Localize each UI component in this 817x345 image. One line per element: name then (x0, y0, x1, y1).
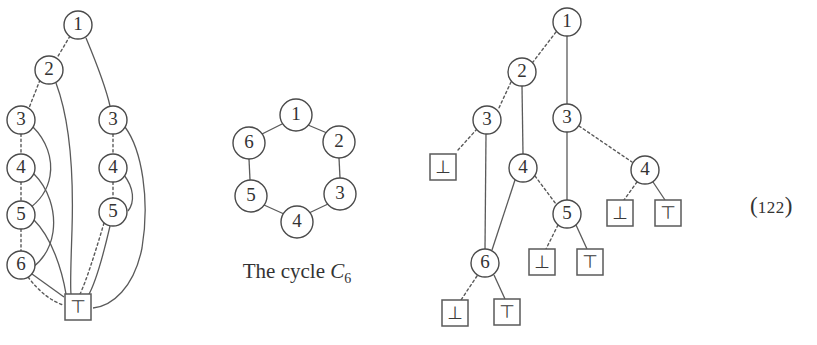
cycle-caption-symbol: C (330, 259, 345, 283)
terminal-node-B6-bottom[interactable]: ⊥ (442, 300, 468, 326)
edge-L2-L3a-dashed (29, 80, 40, 108)
edge-R5-B4-dashed (546, 225, 558, 249)
node-L5a[interactable]: 5 (7, 201, 35, 229)
node-R3a[interactable]: 3 (473, 106, 501, 134)
terminal-node-B2-bottom[interactable]: ⊥ (607, 200, 633, 226)
cycle-node-2[interactable]: 2 (323, 126, 355, 158)
equation-number-open-paren: ( (750, 193, 758, 218)
terminal-node-B3-top[interactable]: ⊤ (655, 200, 681, 226)
edge-R4b-B3-solid (653, 182, 665, 200)
edge-R4a-R6-solid (492, 180, 515, 250)
edge-R6-B7-solid (494, 275, 505, 299)
cycle-caption-prefix: The cycle (243, 259, 330, 283)
equation-number: (122) (750, 193, 792, 218)
cycle-edge-4-5 (264, 205, 284, 214)
edge-L5b-LT-solid (88, 226, 110, 296)
edge-R3a-R6-solid (485, 134, 486, 249)
cycle-caption-subscript: 6 (344, 271, 351, 286)
cycle-caption: The cycle C6 (243, 259, 351, 286)
edge-L6-LT-solid (32, 274, 64, 297)
equation-number-digits: 122 (758, 198, 785, 217)
node-L3b[interactable]: 3 (99, 106, 127, 134)
node-L5b[interactable]: 5 (99, 198, 127, 226)
cycle-node-5[interactable]: 5 (235, 180, 267, 212)
cycle-edge-6-1 (262, 124, 282, 134)
cycle-node-6[interactable]: 6 (233, 127, 265, 159)
edge-R4a-R5-dashed (535, 176, 556, 204)
edge-L1-L3b-solid (86, 38, 110, 106)
node-R2[interactable]: 2 (508, 58, 536, 86)
node-R3b[interactable]: 3 (553, 104, 581, 132)
cycle-node-4[interactable]: 4 (281, 206, 313, 238)
node-R5[interactable]: 5 (553, 200, 581, 228)
edge-R4b-B2-dashed (624, 182, 637, 200)
cycle-edge-5-6 (249, 159, 250, 180)
node-R6[interactable]: 6 (471, 249, 499, 277)
terminal-node-B5-top[interactable]: ⊤ (577, 249, 603, 275)
node-L1[interactable]: 1 (64, 11, 92, 39)
right-diagram: 1 2 3 3 4 4 5 (430, 8, 681, 326)
equation-number-close-paren: ) (785, 193, 793, 218)
middle-diagram: 1 2 3 4 5 6 The cycle C6 (233, 99, 356, 286)
left-diagram-nodes: 1 2 3 3 4 4 5 (7, 11, 127, 320)
node-L4a[interactable]: 4 (7, 154, 35, 182)
edge-R5-B5-solid (576, 225, 587, 249)
node-R4b[interactable]: 4 (631, 156, 659, 184)
edge-L1-L2-dashed (57, 36, 70, 58)
terminal-node-B7-top[interactable]: ⊤ (494, 299, 520, 325)
right-diagram-nodes: 1 2 3 3 4 4 5 (430, 8, 681, 326)
node-L4b[interactable]: 4 (99, 154, 127, 182)
node-R1[interactable]: 1 (553, 8, 581, 36)
edge-L5b-LT-dashed (80, 223, 104, 294)
edge-L5a-LT-solid (34, 220, 66, 294)
cycle-edge-2-3 (339, 158, 340, 178)
cycle-node-1[interactable]: 1 (280, 99, 312, 131)
edge-R3b-R4b-dashed (579, 126, 632, 162)
cycle-edge-1-2 (308, 125, 327, 133)
terminal-node-LT-top[interactable]: ⊤ (65, 294, 91, 320)
edge-R2-R4a-solid (522, 86, 523, 154)
node-L3a[interactable]: 3 (7, 106, 35, 134)
edge-R1-R2-dashed (533, 32, 556, 62)
cycle-edge-3-4 (309, 204, 328, 213)
node-L6[interactable]: 6 (7, 251, 35, 279)
cycle-node-3[interactable]: 3 (324, 178, 356, 210)
edge-R6-B6-dashed (461, 276, 477, 300)
terminal-node-B1-bottom[interactable]: ⊥ (430, 154, 456, 180)
figure-bdd-and-cycle-c6: 1 2 3 3 4 4 5 (0, 0, 817, 345)
terminal-node-B4-bottom[interactable]: ⊥ (529, 249, 555, 275)
left-diagram: 1 2 3 3 4 4 5 (7, 11, 145, 320)
node-R4a[interactable]: 4 (509, 154, 537, 182)
edge-L6-LT-dashed (28, 277, 63, 305)
edge-R2-R3a-dashed (498, 82, 511, 110)
cycle-nodes: 1 2 3 4 5 6 (233, 99, 356, 238)
node-L2[interactable]: 2 (35, 56, 63, 84)
edge-R3a-B1-dashed (458, 129, 477, 150)
